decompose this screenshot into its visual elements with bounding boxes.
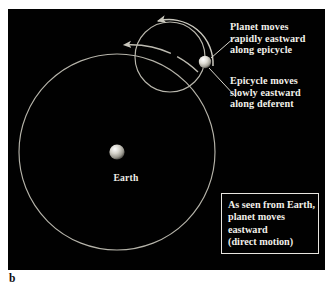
earth-sphere — [109, 144, 124, 159]
earth-label: Earth — [94, 172, 158, 183]
figure-container: Planet moves rapidly eastward along epic… — [0, 0, 332, 288]
planet-sphere — [199, 56, 211, 68]
epicycle-motion-line-2: slowly eastward — [230, 87, 301, 99]
planet-motion-line-3: along epicycle — [230, 44, 305, 56]
callout-line-4: (direct motion) — [228, 236, 318, 248]
epicycle-motion-line-1: Epicycle moves — [230, 75, 301, 87]
epicycle-motion-label: Epicycle moves slowly eastward along def… — [230, 75, 301, 110]
callout-line-2: planet moves — [228, 211, 318, 223]
planet-motion-line-2: rapidly eastward — [230, 33, 305, 45]
callout-line-3: eastward — [228, 224, 318, 236]
planet-motion-label: Planet moves rapidly eastward along epic… — [230, 21, 305, 56]
callout-line-1: As seen from Earth, — [228, 199, 318, 211]
epicycle-orbit — [135, 22, 205, 92]
planet-motion-line-1: Planet moves — [230, 21, 305, 33]
direct-motion-callout-box: As seen from Earth, planet moves eastwar… — [221, 193, 319, 254]
epicycle-motion-line-3: along deferent — [230, 98, 301, 110]
figure-caption: b — [9, 272, 15, 284]
diagram-panel: Planet moves rapidly eastward along epic… — [8, 9, 325, 270]
